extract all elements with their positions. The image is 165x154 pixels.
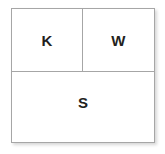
cell-bottom: S xyxy=(12,72,154,142)
partitioned-square: K W S xyxy=(11,8,155,143)
diagram-root: K W S xyxy=(0,0,165,154)
cell-bottom-label: S xyxy=(78,95,88,110)
cell-top-right-label: W xyxy=(111,33,125,48)
cell-top-left: K xyxy=(12,9,83,71)
grid-inner: K W S xyxy=(12,9,154,142)
grid-top-row: K W xyxy=(12,9,154,72)
cell-top-right: W xyxy=(83,9,154,71)
cell-top-left-label: K xyxy=(41,33,52,48)
